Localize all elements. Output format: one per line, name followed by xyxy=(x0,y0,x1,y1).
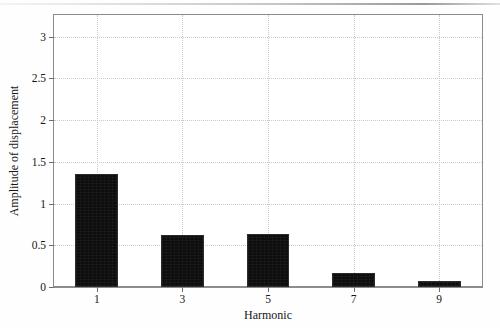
bar-harmonic-3 xyxy=(161,235,204,287)
x-axis-tick-label: 5 xyxy=(265,293,271,305)
y-axis-tick-label: 1 xyxy=(40,198,46,210)
y-axis-tick-label: 3 xyxy=(40,31,46,43)
y-axis-tick xyxy=(49,78,54,79)
x-axis-tick-label: 3 xyxy=(180,293,186,305)
x-axis-tick-label: 9 xyxy=(436,293,442,305)
gridline-vertical xyxy=(354,15,355,287)
y-axis-tick xyxy=(49,287,54,288)
y-axis-tick-label: 0.5 xyxy=(32,239,46,251)
x-axis-tick xyxy=(268,287,269,292)
x-axis-tick-label: 1 xyxy=(94,293,100,305)
plot-area: 00.511.522.5313579 xyxy=(53,14,483,288)
bar-harmonic-7 xyxy=(332,273,375,287)
y-axis-tick-label: 2.5 xyxy=(32,72,46,84)
gridline-vertical xyxy=(439,15,440,287)
bar-harmonic-5 xyxy=(247,234,290,287)
y-axis-tick xyxy=(49,162,54,163)
x-axis-tick xyxy=(439,287,440,292)
x-axis-tick xyxy=(182,287,183,292)
y-axis-tick xyxy=(49,37,54,38)
figure: 00.511.522.5313579 Harmonic Amplitude of… xyxy=(0,0,500,328)
y-axis-tick xyxy=(49,245,54,246)
y-axis-tick-label: 2 xyxy=(40,114,46,126)
x-axis-tick xyxy=(97,287,98,292)
y-axis-tick xyxy=(49,204,54,205)
y-axis-label: Amplitude of displacement xyxy=(7,86,22,217)
x-axis-tick xyxy=(354,287,355,292)
y-axis-tick xyxy=(49,120,54,121)
y-axis-tick-label: 0 xyxy=(40,281,46,293)
bar-harmonic-9 xyxy=(418,281,461,287)
x-axis-tick-label: 7 xyxy=(351,293,357,305)
x-axis-label: Harmonic xyxy=(53,308,483,323)
y-axis-tick-label: 1.5 xyxy=(32,156,46,168)
scan-artifact-line xyxy=(0,3,500,5)
bar-harmonic-1 xyxy=(75,174,118,287)
